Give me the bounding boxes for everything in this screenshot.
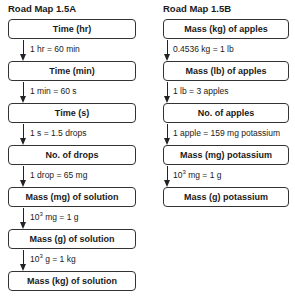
conversion-label: 1 hr = 60 min <box>30 44 80 54</box>
road-map-b-title: Road Map 1.5B <box>163 3 231 14</box>
box-mass-kg-apples: Mass (kg) of apples <box>163 19 289 39</box>
arrow-down-icon <box>164 138 170 145</box>
arrow-down-icon <box>164 180 170 187</box>
arrow-down-icon <box>20 264 26 271</box>
conversion-label: 1 apple = 159 mg potassium <box>173 128 280 138</box>
box-no-of-apples: No. of apples <box>163 103 289 123</box>
arrow-down-icon <box>20 138 26 145</box>
box-mass-g-potassium: Mass (g) potassium <box>163 187 289 207</box>
box-time-min: Time (min) <box>8 61 136 81</box>
arrow-down-icon <box>164 96 170 103</box>
conversion-label: 1 lb = 3 apples <box>173 86 229 96</box>
box-time-hr: Time (hr) <box>8 19 136 39</box>
arrow-down-icon <box>20 222 26 229</box>
box-mass-kg-solution: Mass (kg) of solution <box>8 271 136 291</box>
road-map-a-title: Road Map 1.5A <box>8 3 76 14</box>
conversion-label: 1 drop = 65 mg <box>30 170 87 180</box>
box-no-of-drops: No. of drops <box>8 145 136 165</box>
arrow-down-icon <box>20 54 26 61</box>
conversion-label: 0.4536 kg = 1 lb <box>173 44 234 54</box>
conversion-label: 1 s = 1.5 drops <box>30 128 86 138</box>
box-mass-g-solution: Mass (g) of solution <box>8 229 136 249</box>
conversion-label: 103 g = 1 kg <box>30 254 76 264</box>
arrow-down-icon <box>20 96 26 103</box>
box-mass-lb-apples: Mass (lb) of apples <box>163 61 289 81</box>
conversion-label: 1 min = 60 s <box>30 86 77 96</box>
conversion-label: 103 mg = 1 g <box>173 170 222 180</box>
arrow-down-icon <box>164 54 170 61</box>
box-time-s: Time (s) <box>8 103 136 123</box>
box-mass-mg-solution: Mass (mg) of solution <box>8 187 136 207</box>
arrow-down-icon <box>20 180 26 187</box>
conversion-label: 103 mg = 1 g <box>30 212 79 222</box>
box-mass-mg-potassium: Mass (mg) potassium <box>163 145 289 165</box>
